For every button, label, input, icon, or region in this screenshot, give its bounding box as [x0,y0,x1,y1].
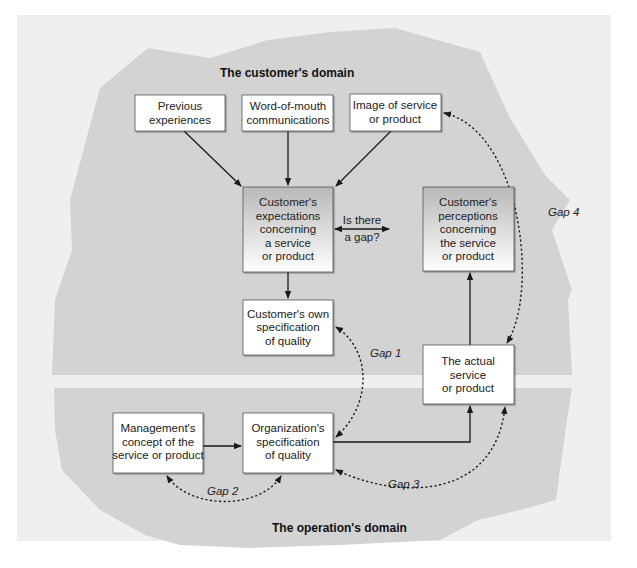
box-line: experiences [149,114,211,126]
box-customer-expectations: Customer's expectations concerning a ser… [243,187,333,272]
box-actual-service: The actual service or product [423,345,514,404]
box-line: specification [256,436,319,448]
box-customer-own-spec: Customer's own specification of quality [243,300,333,355]
operation-domain-title: The operation's domain [272,521,407,535]
box-line: concept of the [122,436,194,448]
gap1-label: Gap 1 [370,347,401,359]
box-management-concept: Management's concept of the service or p… [112,413,204,473]
box-line: concerning [440,223,496,235]
box-line: Image of service [353,99,437,111]
box-line: of quality [265,335,311,347]
box-line: expectations [256,210,321,222]
edge-label-line: a gap? [344,231,379,243]
box-previous-experiences: Previous experiences [135,95,225,131]
box-line: the service [440,237,496,249]
box-line: or product [369,113,422,125]
box-line: Word-of-mouth [250,100,326,112]
box-word-of-mouth: Word-of-mouth communications [242,95,333,131]
gap3-label: Gap 3 [388,478,420,490]
edge-label-line: Is there [343,214,381,226]
box-line: concerning [260,223,316,235]
box-line: or product [442,382,495,394]
customer-domain-title: The customer's domain [220,66,354,80]
service-quality-gap-diagram: The customer's domain The operation's do… [0,0,637,568]
box-line: Previous [158,100,203,112]
box-line: service [450,369,486,381]
box-line: Organization's [251,422,324,434]
box-customer-perceptions: Customer's perceptions concerning the se… [423,187,514,271]
gap2-label: Gap 2 [207,485,239,497]
box-line: Customer's own [247,308,329,320]
box-line: communications [246,114,329,126]
box-line: specification [256,321,319,333]
box-organization-spec: Organization's specification of quality [243,413,333,473]
box-line: Customer's [439,196,497,208]
box-line: Customer's [259,196,317,208]
box-line: The actual [441,355,495,367]
gap4-label: Gap 4 [548,206,579,218]
box-line: perceptions [438,210,498,222]
box-line: of quality [265,449,311,461]
box-line: or product [262,250,315,262]
box-line: Management's [120,422,195,434]
box-line: a service [265,237,311,249]
box-image-of-service: Image of service or product [350,94,441,131]
box-line: service or product [112,449,204,461]
box-line: or product [442,250,495,262]
